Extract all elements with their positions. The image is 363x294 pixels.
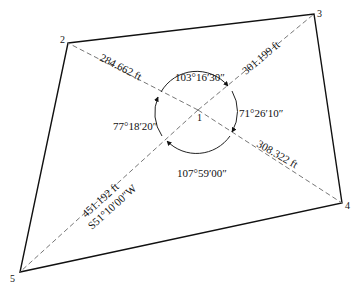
- boundary-polygon: [20, 14, 342, 272]
- angle-label-4-5: 107°59′00″: [177, 167, 227, 179]
- station-label-2: 2: [60, 34, 65, 45]
- radial-line-1-4: [198, 110, 342, 203]
- station-label-4: 4: [345, 200, 350, 211]
- station-label-3: 3: [317, 8, 322, 19]
- survey-diagram: 1 2 3 4 5 284.662 ft 301.199 ft 308.322 …: [0, 0, 363, 294]
- distance-label-1-2: 284.662 ft: [98, 51, 144, 82]
- angle-label-2-3: 103°16′30″: [175, 71, 225, 83]
- distance-label-1-3: 301.199 ft: [240, 38, 282, 76]
- distance-label-1-4: 308.322 ft: [255, 137, 300, 170]
- station-label-5: 5: [10, 273, 15, 284]
- station-label-1: 1: [197, 112, 202, 123]
- angle-label-3-4: 71°26′10″: [239, 107, 283, 119]
- angle-label-5-2: 77°18′20″: [113, 120, 157, 132]
